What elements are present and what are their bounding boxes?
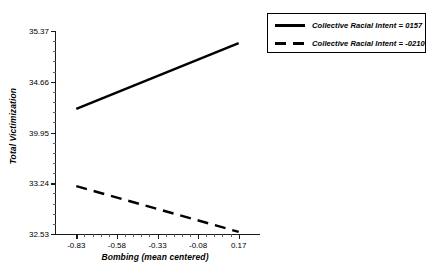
data-line-1 [76,43,238,109]
data-line-2 [76,186,238,232]
chart-figure: Total Victimization Bombing (mean center… [0,0,433,273]
x-tick-minor [174,234,175,237]
x-tick-minor [141,234,142,237]
legend-line-sample-dashed [275,38,305,48]
legend-line-sample-solid [275,20,305,30]
y-tick-label: 34.66 [29,77,49,86]
y-axis-title: Total Victimization [8,88,18,164]
x-tick-label: -0.83 [67,241,85,250]
x-tick-minor [101,234,102,237]
x-tick-label: 0.17 [231,241,247,250]
legend-label-solid: Collective Racial Intent = 0157 [312,21,422,30]
legend: Collective Racial Intent = 0157 Collecti… [267,13,426,53]
y-tick-major [51,234,56,235]
x-tick-minor [182,234,183,237]
x-tick-major [158,234,159,239]
y-tick-label: 39.95 [29,128,49,137]
y-tick-label: 33.24 [29,179,49,188]
x-tick-label: -0.33 [148,241,166,250]
x-tick-minor [206,234,207,237]
y-tick-label: 35.37 [29,27,49,36]
x-tick-minor [133,234,134,237]
data-lines [56,31,259,234]
x-axis-title: Bombing (mean centered) [0,252,310,262]
x-tick-minor [231,234,232,237]
x-tick-minor [93,234,94,237]
x-tick-minor [190,234,191,237]
legend-item-dashed: Collective Racial Intent = -0210 [268,33,425,53]
x-tick-major [117,234,118,239]
x-tick-minor [222,234,223,237]
x-tick-minor [125,234,126,237]
x-tick-minor [214,234,215,237]
x-tick-major [239,234,240,239]
plot-area: 35.3734.6639.9533.2432.53 -0.83-0.58-0.3… [56,31,259,234]
x-tick-label: -0.08 [189,241,207,250]
y-tick-label: 32.53 [29,230,49,239]
x-tick-minor [84,234,85,237]
legend-label-dashed: Collective Racial Intent = -0210 [312,39,425,48]
x-tick-major [198,234,199,239]
x-tick-major [76,234,77,239]
legend-item-solid: Collective Racial Intent = 0157 [268,15,425,35]
x-tick-label: -0.58 [108,241,126,250]
x-tick-minor [166,234,167,237]
x-tick-minor [149,234,150,237]
x-tick-minor [109,234,110,237]
